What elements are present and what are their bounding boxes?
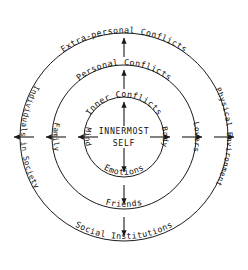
center-label-line1: INNERMOST xyxy=(99,126,150,136)
center-label-line2: SELF xyxy=(113,138,136,148)
concentric-circles-diagram: INNERMOST SELF Inner Conflicts Personal … xyxy=(0,0,248,270)
ring-label-mind-left: Mind xyxy=(83,127,93,148)
diagram-canvas: INNERMOST SELF Inner Conflicts Personal … xyxy=(0,0,248,270)
ring-label-friends-bottom: Friends xyxy=(105,197,143,209)
ring-label-family-left: Family xyxy=(51,122,61,152)
